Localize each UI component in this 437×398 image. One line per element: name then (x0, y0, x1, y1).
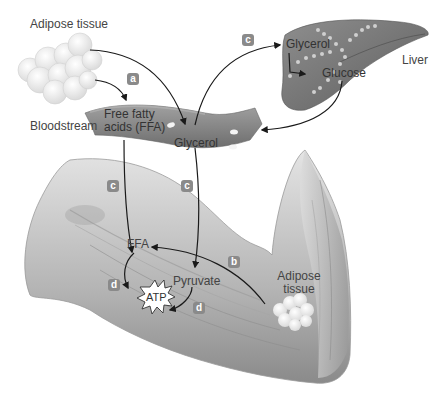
badge-step-a: a (127, 73, 139, 85)
label-pyruvate: Pyruvate (173, 275, 220, 288)
label-adipose-tissue-top: Adipose tissue (30, 18, 108, 31)
label-glucose-liver: Glucose (322, 67, 366, 80)
badge-step-d-pyruvate: d (193, 302, 205, 314)
badge-step-c-liver: c (242, 34, 254, 46)
label-ffa-muscle: FFA (127, 238, 149, 251)
badge-step-c-ffa: c (107, 180, 119, 192)
diagram-artwork (0, 0, 437, 398)
label-bloodstream: Bloodstream (30, 120, 97, 133)
badge-step-d-ffa: d (108, 279, 120, 291)
badge-step-b: b (228, 256, 240, 268)
adipose-tissue-cluster-top (18, 33, 102, 104)
badge-step-c-glycerol: c (181, 180, 193, 192)
label-glycerol-liver: Glycerol (286, 38, 330, 51)
label-liver: Liver (402, 54, 428, 67)
label-atp: ATP (146, 291, 167, 304)
label-ffa-blood-line2: acids (FFA) (104, 121, 165, 134)
label-adipose-arm-line2: tissue (274, 283, 324, 296)
label-glycerol-blood: Glycerol (174, 137, 218, 150)
